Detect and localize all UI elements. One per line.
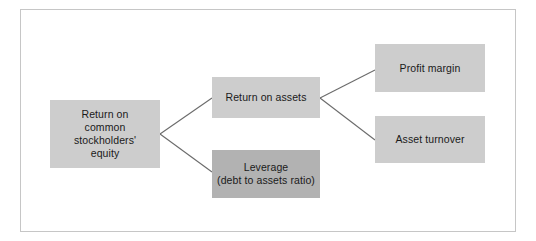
node-profit-margin: Profit margin bbox=[375, 44, 485, 92]
node-leverage: Leverage (debt to assets ratio) bbox=[212, 150, 320, 198]
node-return-on-assets: Return on assets bbox=[212, 77, 320, 118]
node-label: Return on common stockholders' equity bbox=[74, 108, 136, 160]
node-return-on-common-stockholders-equity: Return on common stockholders' equity bbox=[50, 100, 160, 168]
diagram-canvas: Return on common stockholders' equity Re… bbox=[0, 0, 536, 241]
node-label: Asset turnover bbox=[395, 133, 464, 146]
node-asset-turnover: Asset turnover bbox=[375, 116, 485, 163]
node-label: Profit margin bbox=[400, 62, 461, 75]
node-label: Return on assets bbox=[226, 91, 307, 104]
node-label: Leverage (debt to assets ratio) bbox=[217, 161, 315, 187]
